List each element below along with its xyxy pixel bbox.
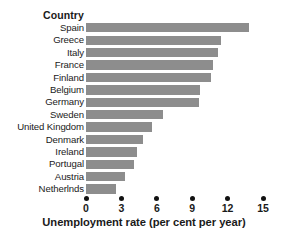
bar bbox=[86, 73, 211, 82]
category-label: Netherlnds bbox=[0, 183, 84, 195]
category-label: Austria bbox=[0, 171, 84, 183]
bar bbox=[86, 23, 249, 32]
bar bbox=[86, 98, 199, 107]
bar bbox=[86, 172, 125, 181]
axis-tick-dot bbox=[225, 196, 230, 201]
bar bbox=[86, 48, 218, 57]
bar-track bbox=[86, 96, 288, 108]
bar-track bbox=[86, 72, 288, 84]
bar-row: Belgium bbox=[0, 84, 288, 96]
bar-track bbox=[86, 84, 288, 96]
bar-row: Ireland bbox=[0, 146, 288, 158]
country-column-header: Country bbox=[0, 9, 84, 21]
bar-row: Greece bbox=[0, 34, 288, 46]
bar-track bbox=[86, 34, 288, 46]
axis-tick-dot bbox=[84, 196, 89, 201]
bar-row: Netherlnds bbox=[0, 183, 288, 195]
bar-track bbox=[86, 47, 288, 59]
bar bbox=[86, 85, 200, 94]
category-label: Denmark bbox=[0, 134, 84, 146]
bar bbox=[86, 110, 163, 119]
category-label: Greece bbox=[0, 34, 84, 46]
bar bbox=[86, 135, 143, 144]
bar bbox=[86, 147, 137, 156]
bar-row: Italy bbox=[0, 47, 288, 59]
bar-row: Sweden bbox=[0, 109, 288, 121]
axis-tick-label: 6 bbox=[142, 202, 172, 214]
bar-track bbox=[86, 146, 288, 158]
axis-tick-label: 9 bbox=[177, 202, 207, 214]
category-label: Spain bbox=[0, 22, 84, 34]
axis-tick-label: 0 bbox=[71, 202, 101, 214]
bar-track bbox=[86, 158, 288, 170]
axis-tick-label: 12 bbox=[213, 202, 243, 214]
category-label: Sweden bbox=[0, 109, 84, 121]
category-label: Finland bbox=[0, 72, 84, 84]
category-label: Portugal bbox=[0, 158, 84, 170]
bar-track bbox=[86, 134, 288, 146]
category-label: Italy bbox=[0, 47, 84, 59]
axis-tick-dot bbox=[261, 196, 266, 201]
axis-tick-dot bbox=[154, 196, 159, 201]
bar-row: France bbox=[0, 59, 288, 71]
bar-row: Germany bbox=[0, 96, 288, 108]
bar-row: Austria bbox=[0, 171, 288, 183]
bar bbox=[86, 184, 116, 193]
x-axis-title: Unemployment rate (per cent per year) bbox=[0, 216, 288, 228]
bar-track bbox=[86, 183, 288, 195]
bar-track bbox=[86, 22, 288, 34]
axis-tick-label: 15 bbox=[248, 202, 278, 214]
category-label: Belgium bbox=[0, 84, 84, 96]
bar-track bbox=[86, 121, 288, 133]
bar-track bbox=[86, 109, 288, 121]
bar bbox=[86, 160, 134, 169]
bar bbox=[86, 122, 152, 131]
axis-tick-dot bbox=[119, 196, 124, 201]
axis-tick-label: 3 bbox=[106, 202, 136, 214]
category-label: Ireland bbox=[0, 146, 84, 158]
category-label: United Kingdom bbox=[0, 121, 84, 133]
bar-track bbox=[86, 59, 288, 71]
x-axis: Unemployment rate (per cent per year) 03… bbox=[0, 196, 288, 235]
unemployment-bar-chart: Country SpainGreeceItalyFranceFinlandBel… bbox=[0, 0, 288, 235]
bar-row: United Kingdom bbox=[0, 121, 288, 133]
bar-row: Denmark bbox=[0, 134, 288, 146]
plot-area: SpainGreeceItalyFranceFinlandBelgiumGerm… bbox=[0, 22, 288, 196]
bar bbox=[86, 60, 213, 69]
bar-row: Portugal bbox=[0, 158, 288, 170]
bar-row: Finland bbox=[0, 72, 288, 84]
bar bbox=[86, 36, 221, 45]
category-label: Germany bbox=[0, 96, 84, 108]
bar-track bbox=[86, 171, 288, 183]
category-label: France bbox=[0, 59, 84, 71]
bar-row: Spain bbox=[0, 22, 288, 34]
axis-tick-dot bbox=[190, 196, 195, 201]
